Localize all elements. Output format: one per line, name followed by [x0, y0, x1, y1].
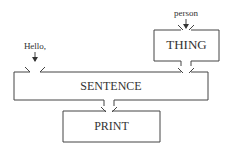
sentence-label: SENTENCE — [14, 79, 208, 94]
input-label-hello: Hello, — [18, 41, 52, 51]
print-label: PRINT — [63, 119, 160, 134]
input-label-person: person — [170, 8, 202, 18]
thing-label: THING — [154, 37, 219, 53]
person-arrowhead-icon — [183, 24, 189, 29]
hello-arrowhead-icon — [32, 57, 38, 62]
